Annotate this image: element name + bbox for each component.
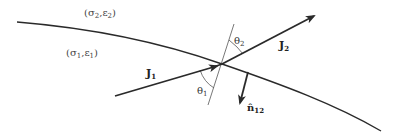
theta1-label: θ1 [197,86,208,98]
n12-label: n̂12 [247,103,264,114]
n12-arrow [240,72,248,103]
theta2-label: θ2 [234,36,245,48]
J2-label: J2 [279,40,289,52]
J1-label: J1 [146,68,156,80]
medium-2-label: (σ2,ε2) [84,8,116,20]
medium-1-label: (σ1,ε1) [66,48,98,60]
J1-arrow-tail [215,64,222,67]
diagram-canvas: (σ2,ε2) (σ1,ε1) J1 J2 θ1 θ2 n̂12 [0,0,393,137]
diagram-svg [0,0,393,137]
boundary-curve [17,22,381,131]
